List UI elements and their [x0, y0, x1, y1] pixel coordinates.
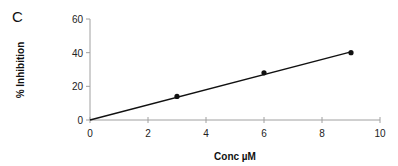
- y-tick-label: 20: [72, 81, 84, 92]
- x-tick-label: 2: [145, 128, 151, 139]
- y-tick-label: 40: [72, 48, 84, 59]
- fit-line: [90, 52, 351, 120]
- y-tick-label: 60: [72, 14, 84, 25]
- chart: 02040600246810Conc µM% Inhibition: [0, 0, 398, 166]
- x-tick-label: 4: [203, 128, 209, 139]
- x-tick-label: 6: [261, 128, 267, 139]
- x-tick-label: 10: [374, 128, 386, 139]
- x-tick-label: 8: [319, 128, 325, 139]
- x-tick-label: 0: [87, 128, 93, 139]
- y-axis-title: % Inhibition: [15, 42, 26, 99]
- y-tick-label: 0: [77, 115, 83, 126]
- x-axis-title: Conc µM: [214, 151, 256, 162]
